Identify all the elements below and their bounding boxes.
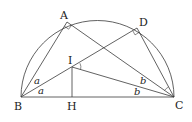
label-i: I [68, 54, 72, 67]
angle-arc-i [80, 63, 81, 69]
angle-label-b-upper: b [140, 75, 146, 86]
label-h: H [67, 100, 77, 113]
label-a: A [59, 9, 69, 22]
segment-ba [21, 22, 67, 97]
label-c: C [175, 99, 183, 112]
angle-label-a-lower: a [38, 85, 44, 96]
angle-label-b-lower: b [134, 86, 140, 97]
segment-dc [137, 28, 174, 97]
segment-ic [72, 67, 174, 97]
label-b: B [14, 100, 22, 113]
label-d: D [139, 16, 148, 29]
segment-ac [67, 22, 174, 97]
angle-arc-c [165, 87, 169, 91]
right-angle-mark-a [64, 25, 71, 29]
geometry-diagram: A D I B H C a a b b [0, 0, 192, 122]
